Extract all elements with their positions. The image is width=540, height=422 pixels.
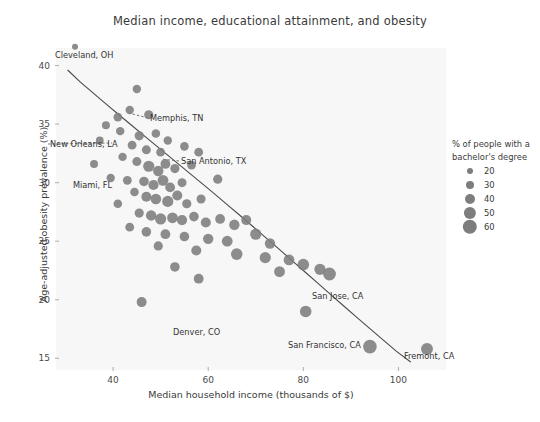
x-tick-label: 100 [390, 375, 407, 385]
point-annotation-label: Denver, CO [173, 327, 220, 337]
legend-title-line-2: bachelor's degree [452, 151, 538, 164]
legend-marker-icon [464, 207, 476, 219]
legend-entry: 50 [452, 206, 538, 220]
legend-entry-label: 30 [484, 178, 495, 192]
y-tick-label: 15 [24, 353, 50, 363]
point-annotation-label: Cleveland, OH [55, 50, 113, 60]
point-annotation-label: Miami, FL [73, 180, 112, 190]
legend-marker-icon [465, 194, 475, 204]
y-tick-label: 40 [24, 61, 50, 71]
legend-entry: 30 [452, 178, 538, 192]
legend-entry: 20 [452, 164, 538, 178]
point-annotation-label: San Antonio, TX [181, 156, 246, 166]
legend-marker-icon [467, 168, 473, 174]
legend-entry-label: 60 [484, 220, 495, 234]
x-tick-label: 80 [298, 375, 309, 385]
point-annotation-label: New Orleans, LA [50, 139, 118, 149]
x-tick-label: 40 [107, 375, 118, 385]
plot-panel [56, 48, 446, 370]
legend-entry-label: 40 [484, 192, 495, 206]
legend-entry-label: 20 [484, 164, 495, 178]
size-legend: % of people with a bachelor's degree 203… [452, 138, 538, 234]
point-annotation-label: Fremont, CA [404, 351, 454, 361]
chart-title: Median income, educational attainment, a… [0, 14, 540, 28]
point-annotation-label: Memphis, TN [150, 113, 203, 123]
x-tick-label: 60 [202, 375, 213, 385]
legend-entry: 60 [452, 220, 538, 234]
legend-title-line-1: % of people with a [452, 138, 538, 151]
chart-figure: Median income, educational attainment, a… [0, 0, 540, 422]
x-axis-label: Median household income (thousands of $) [56, 389, 446, 400]
legend-marker-icon [466, 181, 474, 189]
legend-marker-icon [463, 220, 477, 234]
point-annotation-label: San Jose, CA [312, 291, 363, 301]
legend-entries: 2030405060 [452, 164, 538, 234]
point-annotation-label: San Francisco, CA [288, 340, 361, 350]
y-axis-label: Age-adjusted obesity prevalence (%) [38, 90, 49, 340]
legend-entry-label: 50 [484, 206, 495, 220]
legend-entry: 40 [452, 192, 538, 206]
